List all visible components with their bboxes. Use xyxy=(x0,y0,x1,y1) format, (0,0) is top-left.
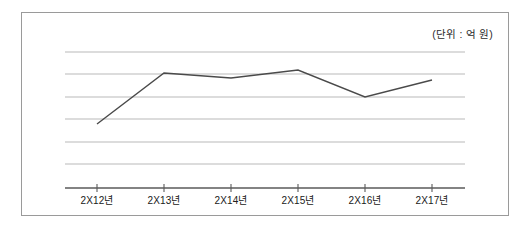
gridlines xyxy=(65,52,465,164)
x-tick-label-5: 2X17년 xyxy=(416,192,449,207)
x-tick-label-1: 2X13년 xyxy=(148,192,181,207)
unit-annotation: (단위 : 억 원) xyxy=(432,26,493,41)
x-tick-label-0: 2X12년 xyxy=(81,192,114,207)
chart-figure: (단위 : 억 원) 2X12년 2X13년 2X14년 2X15년 2X16년… xyxy=(0,0,527,230)
x-tick-label-3: 2X15년 xyxy=(282,192,315,207)
x-tick-label-4: 2X16년 xyxy=(349,192,382,207)
x-tick-label-2: 2X14년 xyxy=(215,192,248,207)
